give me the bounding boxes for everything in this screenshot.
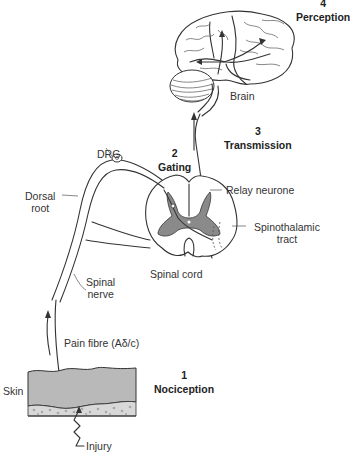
skin-section	[28, 367, 136, 416]
central-sulcus	[232, 16, 246, 84]
label-drg: DRG	[97, 148, 120, 160]
step-3-transmission: 3 Transmission	[224, 124, 292, 152]
label-spinal-nerve: Spinal nerve	[86, 276, 115, 300]
temporal-lobe-edge	[226, 64, 250, 80]
ventral-root-lower	[86, 240, 150, 248]
step-name: Gating	[158, 160, 191, 174]
label-spinal-nerve-line1: Spinal	[86, 276, 115, 288]
label-skin: Skin	[3, 385, 23, 397]
afferent-arrow-head	[45, 310, 51, 318]
label-brain: Brain	[230, 90, 255, 102]
brain-arrow-head	[219, 30, 225, 37]
label-spinothalamic-tract: Spinothalamic tract	[254, 221, 320, 245]
afferent-arrow	[47, 316, 50, 355]
step-number: 2	[158, 146, 191, 160]
step-4-perception: 4 Perception	[296, 0, 350, 24]
synapse	[171, 204, 175, 208]
label-dorsal-root-line2: root	[25, 202, 55, 214]
step-2-gating: 2 Gating	[158, 146, 191, 174]
label-injury: Injury	[86, 440, 112, 452]
step-name: Transmission	[224, 138, 292, 152]
label-relay-neurone: Relay neurone	[226, 184, 294, 196]
label-dorsal-root: Dorsal root	[25, 190, 55, 214]
injury-zigzag	[74, 412, 84, 446]
label-spinothalamic-line1: Spinothalamic	[254, 221, 320, 233]
step-number: 3	[224, 124, 292, 138]
label-dorsal-root-line1: Dorsal	[25, 190, 55, 202]
step-name: Nociception	[154, 382, 214, 396]
step-number: 4	[296, 0, 350, 10]
label-spinal-nerve-line2: nerve	[86, 288, 115, 300]
step-number: 1	[154, 368, 214, 382]
spinal-cord-section	[146, 175, 237, 257]
spinal-cord-outline	[146, 175, 237, 257]
ventral-root	[92, 222, 150, 240]
label-spinal-cord: Spinal cord	[150, 268, 203, 280]
ascending-arrow-head	[191, 112, 197, 120]
dorsal-root-leader	[62, 195, 78, 196]
label-spinothalamic-line2: tract	[254, 233, 320, 245]
step-name: Perception	[296, 10, 350, 24]
spinal-nerve-leader	[74, 274, 86, 290]
central-canal	[188, 221, 191, 224]
step-1-nociception: 1 Nociception	[154, 368, 214, 396]
label-pain-fibre: Pain fibre (Aδ/c)	[64, 337, 139, 349]
frontal-sulcus	[209, 22, 214, 58]
